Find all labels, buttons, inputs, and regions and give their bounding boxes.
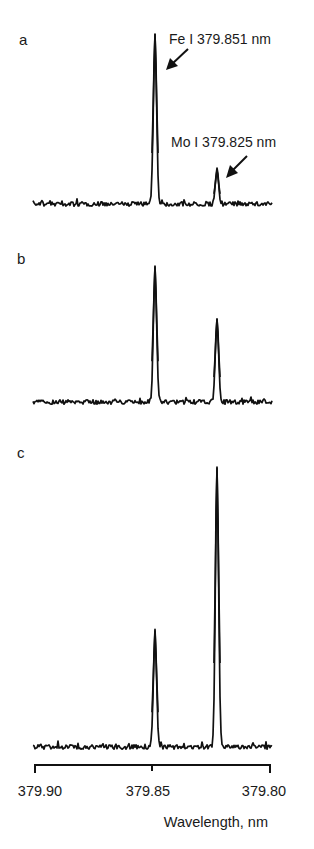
panel-c: c [17, 444, 272, 749]
peak-apex [152, 266, 158, 361]
panel-label-c: c [17, 444, 25, 461]
x-axis: 379.90 379.85 379.80 Wavelength, nm [18, 765, 286, 830]
x-tick-label: 379.90 [18, 783, 62, 799]
panel-label-a: a [19, 31, 28, 48]
x-tick-label: 379.80 [242, 783, 286, 799]
panel-label-b: b [17, 250, 25, 267]
peak-apex [214, 170, 220, 194]
annotation-fe-line: Fe I 379.851 nm [169, 31, 271, 47]
x-axis-title: Wavelength, nm [164, 814, 268, 830]
peak-apex [214, 319, 220, 377]
annotation-mo-line: Mo I 379.825 nm [171, 134, 276, 150]
arrow-icon-fe [166, 49, 188, 70]
x-tick-label: 379.85 [126, 783, 170, 799]
spectra-figure: a Fe I 379.851 nm Mo I 379.825 nm b c 37… [0, 0, 314, 849]
arrow-icon-mo [226, 156, 247, 178]
peak-apex [214, 467, 220, 663]
peak-apex [152, 34, 158, 153]
peak-apex [152, 631, 158, 712]
x-axis-line [35, 765, 270, 773]
panel-b: b [17, 250, 272, 404]
panel-a: a Fe I 379.851 nm Mo I 379.825 nm [19, 31, 276, 206]
